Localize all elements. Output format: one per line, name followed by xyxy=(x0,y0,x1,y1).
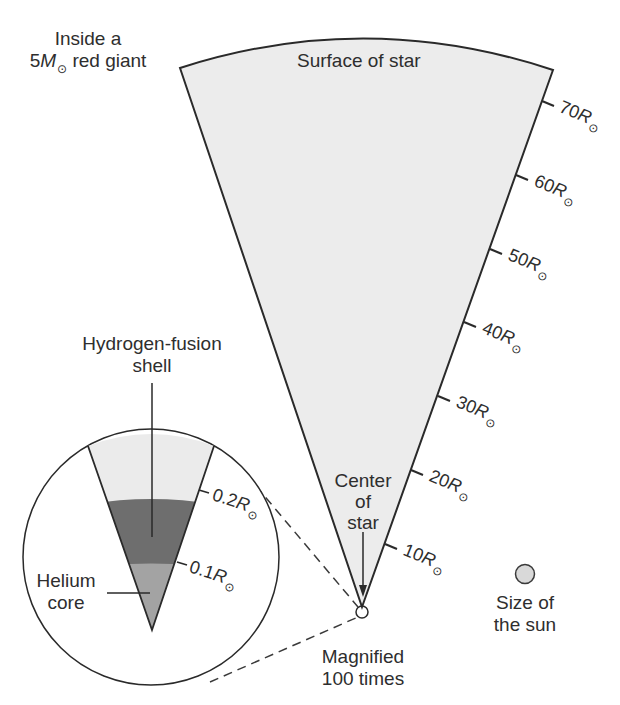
helium-core-label: Helium core xyxy=(26,570,106,614)
sun-size-label: Size of the sun xyxy=(480,592,570,636)
surface-of-star-label: Surface of star xyxy=(297,50,421,72)
title-line-2: 5M⊙ red giant xyxy=(8,50,168,74)
diagram-title: Inside a 5M⊙ red giant xyxy=(8,28,168,74)
center-of-star-label: Center of star xyxy=(323,470,403,533)
sun-size-circle xyxy=(516,565,535,584)
hydrogen-shell-label: Hydrogen-fusion shell xyxy=(62,333,242,377)
magnified-caption: Magnified 100 times xyxy=(308,646,418,690)
title-line-1: Inside a xyxy=(8,28,168,50)
